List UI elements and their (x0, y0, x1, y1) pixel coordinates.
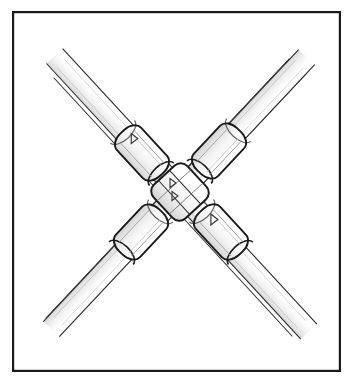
technical-drawing-svg (0, 0, 353, 386)
drawing-content (43, 49, 317, 340)
figure-root: Crossed rod cross-clamp assembly Patent-… (0, 0, 353, 386)
